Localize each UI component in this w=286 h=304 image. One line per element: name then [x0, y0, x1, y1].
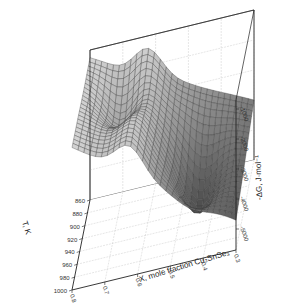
surface-plot: 86088090092094096098010000.80.70.60.50.4…	[0, 0, 286, 304]
y-tick-label: 980	[60, 275, 71, 281]
y-tick-label: 920	[67, 237, 78, 243]
y-tick-label: 1000	[54, 288, 68, 294]
x-tick-label: 0.8	[69, 293, 77, 303]
y-tick-label: 900	[70, 224, 81, 230]
z-axis-label: -ΔG, J·mol⁻¹	[253, 155, 264, 201]
x-tick-label: 0.3	[233, 253, 241, 263]
y-tick-label: 860	[75, 198, 86, 204]
y-tick-label: 940	[65, 249, 76, 255]
y-tick-label: 960	[62, 262, 73, 268]
y-tick-label: 880	[72, 211, 83, 217]
y-axis-label: T, K	[20, 220, 33, 237]
z-tick-label: -5000	[239, 225, 250, 242]
x-tick-label: 0.7	[102, 285, 110, 295]
chart-container: 86088090092094096098010000.80.70.60.50.4…	[0, 0, 286, 304]
